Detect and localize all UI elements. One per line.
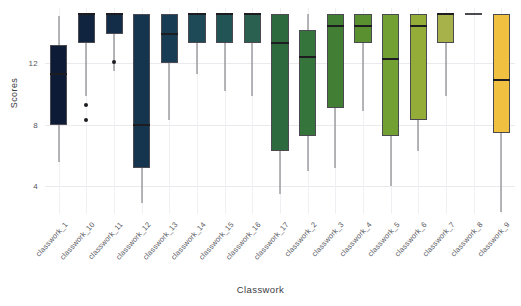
box-plot-item[interactable] [465, 8, 482, 214]
median-line [188, 13, 205, 15]
box-plot-item[interactable] [188, 8, 205, 214]
box-rect [216, 14, 233, 43]
x-axis-ticks: classwork_1classwork_10classwork_11class… [45, 214, 515, 276]
box-rect [133, 14, 150, 168]
box-rect [354, 14, 371, 43]
box-rect [161, 14, 178, 63]
median-line [78, 13, 95, 15]
box-plot-item[interactable] [271, 8, 288, 214]
median-line [133, 124, 150, 126]
median-line [299, 56, 316, 58]
outlier-point [84, 103, 88, 107]
median-line [106, 13, 123, 15]
median-line [271, 42, 288, 44]
box-plot-item[interactable] [410, 8, 427, 214]
y-tick-label: 8 [33, 120, 38, 129]
box-rect [50, 45, 67, 125]
y-axis-ticks: 1284 [0, 8, 38, 214]
box-plot-item[interactable] [354, 8, 371, 214]
median-line [382, 58, 399, 60]
box-plot-item[interactable] [299, 8, 316, 214]
box-plot-item[interactable] [133, 8, 150, 214]
box-plot-item[interactable] [50, 8, 67, 214]
box-plot-item[interactable] [437, 8, 454, 214]
box-plot-item[interactable] [216, 8, 233, 214]
box-rect [78, 14, 95, 43]
median-line [327, 25, 344, 27]
box-rect [299, 30, 316, 136]
box-rect [410, 14, 427, 120]
box-rect [327, 14, 344, 108]
outlier-point [84, 118, 88, 122]
box-rect [271, 14, 288, 151]
box-rect [244, 14, 261, 43]
box-rect [382, 14, 399, 135]
box-plot-item[interactable] [327, 8, 344, 214]
median-line [244, 13, 261, 15]
boxplot-figure: 1284 Scores classwork_1classwork_10class… [0, 0, 521, 306]
box-rect [465, 13, 482, 15]
box-plot-item[interactable] [106, 8, 123, 214]
outlier-point [112, 60, 116, 64]
median-line [216, 13, 233, 15]
y-tick-label: 12 [29, 59, 39, 68]
median-line [493, 79, 510, 81]
box-rect [188, 14, 205, 43]
box-plot-item[interactable] [493, 8, 510, 214]
box-plot-item[interactable] [78, 8, 95, 214]
median-line [354, 25, 371, 27]
median-line [50, 73, 67, 75]
box-plot-item[interactable] [382, 8, 399, 214]
y-tick-label: 4 [33, 182, 38, 191]
y-axis-label: Scores [9, 63, 19, 123]
box-rect [106, 14, 123, 34]
box-rect [493, 14, 510, 132]
median-line [437, 13, 454, 15]
median-line [161, 33, 178, 35]
box-plot-item[interactable] [244, 8, 261, 214]
plot-area [45, 8, 515, 214]
box-plot-item[interactable] [161, 8, 178, 214]
box-rect [437, 14, 454, 43]
x-axis-label: Classwork [0, 284, 521, 295]
median-line [410, 25, 427, 27]
